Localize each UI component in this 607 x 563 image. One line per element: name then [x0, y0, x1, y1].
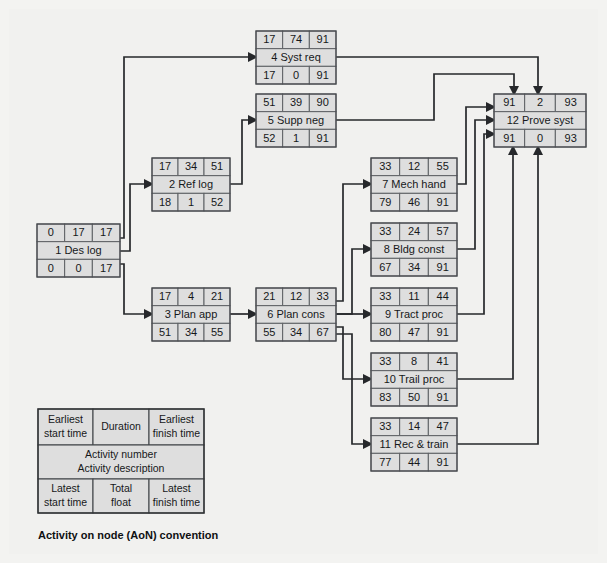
legend-label-total-float-line1: Total	[110, 482, 132, 494]
node-layer: 017171 Des log00171734512 Ref log1815217…	[37, 31, 586, 471]
legend-label-total-float-line2: float	[111, 496, 131, 508]
edge-6-to-11	[336, 334, 363, 444]
node-6-value-earliest-start: 21	[263, 290, 275, 302]
node-7-value-duration: 12	[408, 160, 420, 172]
legend-label-duration: Duration	[101, 420, 141, 432]
node-10[interactable]: 3384110 Trail proc835091	[371, 353, 457, 406]
node-7-value-earliest-finish: 55	[437, 160, 449, 172]
node-3[interactable]: 174213 Plan app513455	[152, 288, 230, 341]
node-5-value-earliest-start: 51	[263, 96, 275, 108]
node-11-value-earliest-start: 33	[379, 420, 391, 432]
node-7-value-latest-start: 79	[379, 196, 391, 208]
node-12-value-earliest-start: 91	[503, 96, 515, 108]
node-8-value-duration: 24	[408, 225, 420, 237]
node-9-value-latest-finish: 91	[437, 326, 449, 338]
edge-2-to-5	[230, 120, 248, 184]
node-8-title: 8 Bldg const	[384, 243, 445, 255]
node-1-value-latest-start: 0	[48, 262, 54, 274]
node-7-title: 7 Mech hand	[382, 178, 446, 190]
node-5-value-duration: 39	[290, 96, 302, 108]
node-8-value-latest-start: 67	[379, 261, 391, 273]
node-2[interactable]: 1734512 Ref log18152	[152, 158, 230, 211]
node-11[interactable]: 33144711 Rec & train774491	[371, 418, 457, 471]
node-12-value-latest-start: 91	[503, 132, 515, 144]
node-5[interactable]: 5139905 Supp neg52191	[256, 94, 336, 147]
edge-6-to-7	[336, 184, 363, 301]
node-2-title: 2 Ref log	[169, 178, 213, 190]
node-11-value-earliest-finish: 47	[437, 420, 449, 432]
node-8-value-earliest-start: 33	[379, 225, 391, 237]
node-10-value-earliest-finish: 41	[437, 355, 449, 367]
node-8-value-latest-finish: 91	[437, 261, 449, 273]
node-5-value-total-float: 1	[293, 132, 299, 144]
node-3-value-latest-start: 51	[159, 326, 171, 338]
node-2-value-earliest-start: 17	[159, 160, 171, 172]
node-1-value-earliest-start: 0	[48, 226, 54, 238]
legend-label-earliest-start-line1: Earliest	[48, 413, 83, 425]
node-9-value-earliest-finish: 44	[437, 290, 449, 302]
node-9[interactable]: 3311449 Tract proc804791	[371, 288, 457, 341]
node-8[interactable]: 3324578 Bldg const673491	[371, 223, 457, 276]
node-10-value-latest-finish: 91	[437, 391, 449, 403]
edge-11-to-12	[457, 155, 538, 444]
aon-diagram-page: 017171 Des log00171734512 Ref log1815217…	[0, 0, 607, 563]
legend-label-latest-start-line2: start time	[44, 496, 87, 508]
node-4-value-earliest-start: 17	[263, 33, 275, 45]
node-1-value-total-float: 0	[75, 262, 81, 274]
node-1-value-latest-finish: 17	[100, 262, 112, 274]
node-9-value-earliest-start: 33	[379, 290, 391, 302]
node-6-value-total-float: 34	[290, 326, 302, 338]
node-7-value-earliest-start: 33	[379, 160, 391, 172]
legend-label-activity-number: Activity number	[85, 448, 157, 460]
node-10-value-total-float: 50	[408, 391, 420, 403]
node-4-value-latest-finish: 91	[317, 69, 329, 81]
node-3-value-duration: 4	[188, 290, 194, 302]
edge-4-to-12	[336, 57, 538, 86]
node-5-value-latest-start: 52	[263, 132, 275, 144]
node-6[interactable]: 2112336 Plan cons553467	[256, 288, 336, 341]
edge-9-to-12	[457, 134, 486, 314]
edge-10-to-12	[457, 155, 513, 379]
diagram-caption: Activity on node (AoN) convention	[38, 529, 219, 541]
node-6-value-duration: 12	[290, 290, 302, 302]
node-12-value-duration: 2	[537, 96, 543, 108]
edge-7-to-12	[457, 107, 486, 184]
node-5-title: 5 Supp neg	[268, 114, 324, 126]
node-10-title: 10 Trail proc	[384, 373, 445, 385]
node-10-value-latest-start: 83	[379, 391, 391, 403]
node-10-value-duration: 8	[411, 355, 417, 367]
node-1[interactable]: 017171 Des log0017	[37, 224, 120, 277]
legend-label-latest-start-line1: Latest	[51, 482, 80, 494]
node-1-value-earliest-finish: 17	[100, 226, 112, 238]
node-4[interactable]: 1774914 Syst req17091	[256, 31, 336, 84]
node-12-value-earliest-finish: 93	[565, 96, 577, 108]
legend-label-earliest-finish-line2: finish time	[153, 427, 200, 439]
node-3-value-earliest-finish: 21	[211, 290, 223, 302]
node-2-value-latest-finish: 52	[211, 196, 223, 208]
legend-label-earliest-finish-line1: Earliest	[159, 413, 194, 425]
node-9-value-duration: 11	[408, 290, 419, 302]
node-10-value-earliest-start: 33	[379, 355, 391, 367]
node-9-value-latest-start: 80	[379, 326, 391, 338]
node-11-title: 11 Rec & train	[380, 438, 449, 450]
legend-label-earliest-start-line2: start time	[44, 427, 87, 439]
node-7-value-total-float: 46	[408, 196, 420, 208]
edge-1-to-3	[120, 264, 144, 314]
node-6-value-latest-finish: 67	[317, 326, 329, 338]
node-4-value-total-float: 0	[293, 69, 299, 81]
node-2-value-total-float: 1	[188, 196, 194, 208]
edge-6-to-8	[336, 249, 363, 314]
node-3-value-earliest-start: 17	[159, 290, 171, 302]
aon-network-diagram: 017171 Des log00171734512 Ref log1815217…	[0, 0, 607, 563]
node-12-value-latest-finish: 93	[565, 132, 577, 144]
node-6-value-earliest-finish: 33	[317, 290, 329, 302]
node-7[interactable]: 3312557 Mech hand794691	[371, 158, 457, 211]
node-2-value-duration: 34	[185, 160, 197, 172]
node-2-value-earliest-finish: 51	[211, 160, 223, 172]
node-3-value-total-float: 34	[185, 326, 197, 338]
node-12[interactable]: 9129312 Prove syst91093	[494, 94, 586, 147]
node-1-value-duration: 17	[72, 226, 84, 238]
node-8-value-earliest-finish: 57	[437, 225, 449, 237]
node-1-title: 1 Des log	[55, 244, 101, 256]
node-12-title: 12 Prove syst	[507, 114, 574, 126]
